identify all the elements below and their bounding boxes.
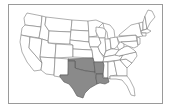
state-kansas (73, 49, 93, 58)
state-maine (145, 10, 155, 29)
state-arizona (40, 57, 55, 75)
state-florida (110, 76, 135, 96)
state-washington (24, 13, 42, 27)
us-map (0, 0, 172, 108)
state-north-dakota (71, 20, 89, 31)
state-colorado (55, 44, 73, 58)
state-montana (45, 17, 72, 32)
state-arkansas[interactable] (94, 62, 104, 74)
state-new-mexico (54, 58, 69, 77)
state-wyoming (48, 31, 71, 44)
